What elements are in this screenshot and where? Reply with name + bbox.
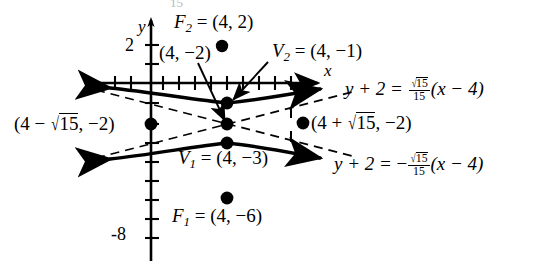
label-vertex-1-base: V [178, 147, 190, 168]
point-covertex-right [297, 117, 310, 130]
sqrt-icon-left: √15 [50, 113, 78, 133]
label-focus-2-base: F [174, 11, 186, 32]
asymptote-upper-radicand: 15 [416, 77, 428, 90]
label-covertex-right-pre: (4 + [311, 112, 347, 133]
point-vertex-2 [221, 97, 234, 110]
y-axis-label: y [138, 18, 146, 35]
asymptote-lower-fraction: √1515 [408, 152, 429, 179]
asymptote-lower-numerator: √15 [408, 152, 429, 165]
label-covertex-right: (4 + √15, −2) [311, 112, 412, 132]
y-tick-label-2: 2 [125, 36, 134, 54]
asymptote-lower-sign: − [397, 153, 408, 174]
y-tick-label-neg8: -8 [111, 225, 126, 243]
label-focus-2-rest: = (4, 2) [192, 11, 253, 32]
hyperbola-figure: 15 [0, 0, 535, 261]
label-vertex-1: V1 = (4, −3) [178, 148, 268, 171]
label-focus-1-base: F [172, 205, 184, 226]
plotted-points [145, 40, 310, 205]
x-axis-label: x [324, 62, 332, 79]
label-covertex-left-pre: (4 − [14, 113, 50, 134]
label-focus-1-rest: = (4, −6) [190, 205, 262, 226]
asymptote-upper-rhs: (x − 4) [431, 78, 484, 99]
point-focus-1 [221, 192, 234, 205]
label-center: (4, −2) [159, 43, 211, 62]
asymptote-upper-denominator: 15 [409, 90, 430, 103]
asymptote-lower-rhs: (x − 4) [431, 153, 484, 174]
asymptote-upper-lhs: y + 2 = [345, 78, 408, 99]
label-covertex-left-post: , −2) [78, 113, 114, 134]
asymptote-lower-denominator: 15 [408, 165, 429, 178]
label-vertex-2-rest: = (4, −1) [290, 40, 362, 61]
label-vertex-2-base: V [272, 40, 284, 61]
equation-asymptote-upper: y + 2 = √1515(x − 4) [345, 77, 484, 104]
sqrt-icon-right: √15 [347, 112, 375, 132]
label-vertex-2: V2 = (4, −1) [272, 41, 362, 64]
asymptote-upper-numerator: √15 [409, 77, 430, 90]
point-focus-2 [216, 40, 228, 52]
asymptote-upper-fraction: √1515 [409, 77, 430, 104]
label-covertex-left-radicand: 15 [59, 113, 78, 133]
label-covertex-left: (4 − √15, −2) [14, 113, 115, 133]
label-covertex-right-radicand: 15 [356, 112, 375, 132]
point-center [221, 118, 234, 131]
equation-asymptote-lower: y + 2 = −√1515(x − 4) [334, 152, 483, 179]
label-focus-2: F2 = (4, 2) [174, 12, 253, 35]
label-focus-1: F1 = (4, −6) [172, 206, 262, 229]
label-vertex-1-rest: = (4, −3) [196, 147, 268, 168]
leader-lines [198, 62, 268, 121]
point-covertex-left [145, 118, 158, 131]
asymptote-lower-radicand: 15 [416, 152, 428, 165]
label-covertex-right-post: , −2) [375, 112, 411, 133]
y-axis [147, 17, 154, 261]
asymptote-lower-lhs: y + 2 = [334, 153, 397, 174]
